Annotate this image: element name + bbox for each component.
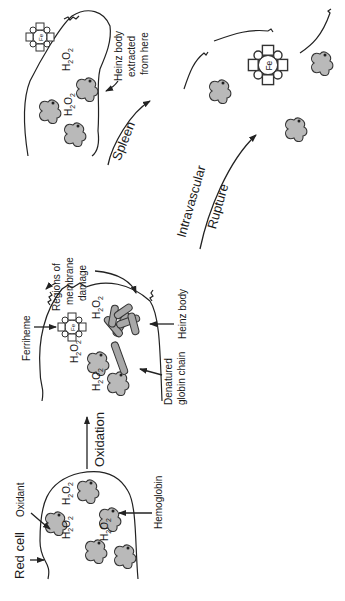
membrane-damage-label-2: membrane xyxy=(64,257,75,305)
membrane-fragment xyxy=(300,9,331,53)
transition-oxidation: Oxidation xyxy=(87,412,107,469)
hemoglobin-molecule xyxy=(312,52,333,75)
ferriheme-label: Ferriheme xyxy=(21,315,32,361)
ferriheme-molecule: Fe xyxy=(26,23,54,51)
intravascular-label-2: Rupture xyxy=(204,182,231,231)
extracted-label-3: from here xyxy=(139,32,150,75)
hemoglobin-molecule xyxy=(108,372,129,395)
membrane-damage-arrow-2 xyxy=(95,271,136,293)
heinz-body-cluster xyxy=(103,303,141,338)
hemoglobin-molecule xyxy=(286,118,307,141)
heinz-body-label: Heinz body xyxy=(177,289,188,339)
red-cell-label: Red cell xyxy=(12,532,27,579)
hemoglobin-molecule xyxy=(210,80,231,103)
hemoglobin-molecule xyxy=(115,545,136,568)
hemoglobin-label: Hemoglobin xyxy=(153,476,164,529)
h2o2-label: H2O2 xyxy=(91,296,104,319)
stage-ruptured-cell: Fe xyxy=(184,9,333,142)
transition-intravascular-rupture: Intravascular Rupture xyxy=(174,135,256,249)
extracted-label-2: extracted xyxy=(126,36,137,77)
intravascular-label-1: Intravascular xyxy=(174,163,209,239)
oxidant-label: Oxidant xyxy=(15,482,26,517)
membrane-fragment xyxy=(184,52,208,89)
membrane-damage-label-3: damage xyxy=(77,264,88,301)
stage-red-cell: H2O2 H2O2 H2O2 Red cell Oxidant Hemoglob… xyxy=(12,472,164,579)
ferriheme-molecule: Fe xyxy=(248,45,287,84)
hemoglobin-molecule xyxy=(77,78,98,101)
ferriheme-molecule: Fe xyxy=(58,313,86,341)
hemoglobin-molecule xyxy=(40,100,61,123)
h2o2-label: H2O2 xyxy=(69,340,82,363)
hemoglobin-molecule xyxy=(86,540,107,563)
denatured-pointer-arrow xyxy=(140,369,162,375)
transition-spleen: Spleen xyxy=(108,101,150,165)
h2o2-label: H2O2 xyxy=(63,93,76,116)
spleen-label: Spleen xyxy=(109,119,138,162)
hemoglobin-molecule xyxy=(65,123,86,146)
membrane-damage-mark xyxy=(150,290,153,301)
fe-label: Fe xyxy=(38,33,44,41)
h2o2-label: H2O2 xyxy=(61,48,74,71)
diagram-canvas: H2O2 H2O2 H2O2 Red cell Oxidant Hemoglob… xyxy=(0,0,345,601)
membrane-fragment xyxy=(214,29,273,41)
stage-oxidized-cell: Fe H2O2 H2O2 H2O2 Ferriheme Regions of m… xyxy=(21,257,188,405)
denatured-label-2: globin chain xyxy=(176,352,187,405)
denatured-globin-chain xyxy=(110,341,128,375)
fe-label: Fe xyxy=(264,60,274,70)
oxidation-label: Oxidation xyxy=(92,412,107,467)
extracted-pointer-arrow xyxy=(106,81,118,91)
membrane-damage-label-1: Regions of xyxy=(51,263,62,311)
extracted-label-1: Heinz body xyxy=(113,31,124,81)
fe-label: Fe xyxy=(70,323,76,331)
denatured-label-1: Denatured xyxy=(163,358,174,405)
hemoglobin-molecule xyxy=(78,480,99,503)
h2o2-label: H2O2 xyxy=(61,482,74,505)
